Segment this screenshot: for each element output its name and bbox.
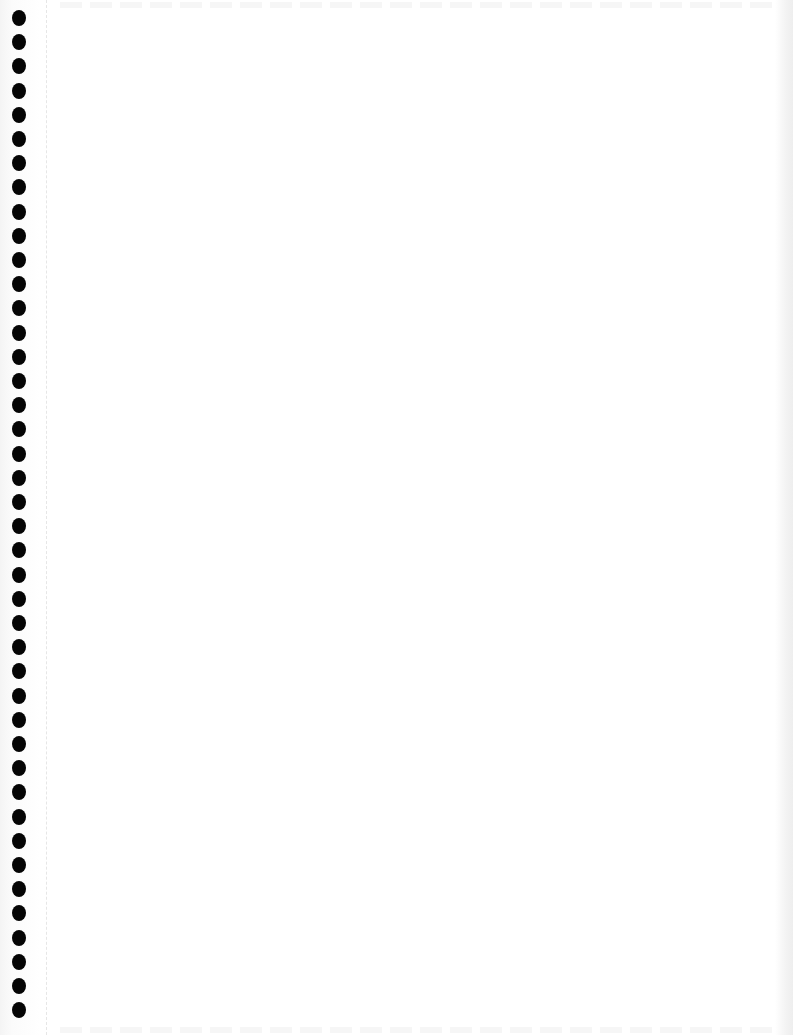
binding-hole: [12, 542, 26, 558]
binding-hole: [12, 833, 26, 849]
binding-hole: [12, 591, 26, 607]
bleed-through-text-bottom: [60, 1027, 773, 1033]
binding-hole: [12, 179, 26, 195]
binding-hole: [12, 58, 26, 74]
binding-hole: [12, 784, 26, 800]
notebook-page: [0, 0, 793, 1035]
binding-hole: [12, 397, 26, 413]
binding-hole: [12, 760, 26, 776]
binding-hole: [12, 881, 26, 897]
binding-hole: [12, 276, 26, 292]
binding-hole: [12, 107, 26, 123]
binding-hole: [12, 712, 26, 728]
bleed-through-text-top: [60, 2, 773, 8]
binding-hole: [12, 567, 26, 583]
binding-hole: [12, 639, 26, 655]
binding-hole: [12, 978, 26, 994]
binding-hole: [12, 325, 26, 341]
binding-hole: [12, 930, 26, 946]
binding-hole: [12, 688, 26, 704]
binding-hole: [12, 1002, 26, 1018]
binding-hole: [12, 470, 26, 486]
binding-hole: [12, 10, 26, 26]
binding-hole: [12, 421, 26, 437]
binding-hole: [12, 615, 26, 631]
binding-hole: [12, 300, 26, 316]
spiral-binding-holes: [0, 0, 40, 1035]
binding-hole: [12, 446, 26, 462]
binding-hole: [12, 131, 26, 147]
binding-hole: [12, 736, 26, 752]
binding-hole: [12, 518, 26, 534]
binding-hole: [12, 228, 26, 244]
binding-hole: [12, 494, 26, 510]
binding-hole: [12, 809, 26, 825]
binding-hole: [12, 252, 26, 268]
binding-hole: [12, 155, 26, 171]
binding-hole: [12, 34, 26, 50]
binding-hole: [12, 349, 26, 365]
binding-hole: [12, 83, 26, 99]
binding-hole: [12, 905, 26, 921]
perforation-line: [46, 0, 47, 1035]
page-content: [60, 20, 763, 1015]
binding-hole: [12, 857, 26, 873]
binding-hole: [12, 954, 26, 970]
binding-hole: [12, 204, 26, 220]
binding-hole: [12, 663, 26, 679]
binding-hole: [12, 373, 26, 389]
